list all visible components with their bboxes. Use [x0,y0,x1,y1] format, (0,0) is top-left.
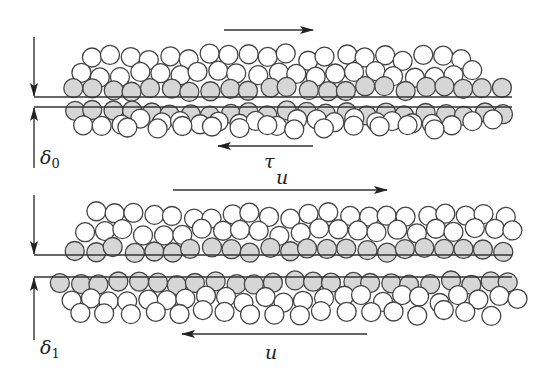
grain-white [414,45,433,64]
grain-white [490,286,509,305]
grain-white [214,221,233,240]
grain-white [315,47,334,66]
grain-shaded [240,243,259,262]
grain-white [329,220,348,239]
grain-white [370,117,389,136]
grain-white [485,219,504,238]
grain-shaded [202,238,221,257]
delta0-label: δ0 [40,148,60,170]
grain-white [483,110,502,129]
grain-white [239,45,258,64]
u-label-bottom-panel: u [265,343,277,362]
tau-label: τ [264,152,275,171]
grain-white [124,203,143,222]
u-label-top-panel: u [276,168,288,187]
grain-white [408,306,427,325]
grain-white [456,302,475,321]
grain-white [215,302,234,321]
grain-white [192,219,211,238]
bottom-panel-grains [50,202,527,326]
grain-shaded [180,82,199,101]
grain-white [344,116,363,135]
grain-white [256,287,275,306]
grain-white [265,305,284,324]
grain-white [241,305,260,324]
grain-white [463,112,482,131]
grain-white [209,61,228,80]
grain-shaded [395,240,414,259]
grain-white [162,207,181,226]
grain-shaded [148,273,167,292]
grain-shaded [141,79,160,98]
grain-white [444,222,463,241]
grain-white [311,302,330,321]
grain-white [362,303,381,322]
grain-white [87,202,106,221]
grain-shaded [201,82,220,101]
grain-white [76,223,95,242]
grain-white [170,304,189,323]
grain-shaded [286,271,305,290]
grain-shaded [122,82,141,101]
grain-white [71,303,90,322]
grain-white [425,120,444,139]
grain-white [482,306,501,325]
grain-shaded [304,272,323,291]
grain-white [348,221,367,240]
grain-white [173,116,192,135]
grain-white [434,301,453,320]
grain-white [388,220,407,239]
grain-white [249,221,268,240]
grain-white [74,116,93,135]
grain-white [100,45,119,64]
grain-shaded [358,241,377,260]
grain-white [200,44,219,63]
grain-white [134,226,153,245]
grain-shaded [435,77,454,96]
delta1-label: δ1 [40,338,60,360]
grain-white [285,120,304,139]
grain-white [463,61,482,80]
grain-shaded [473,240,492,259]
grain-white [161,47,180,66]
grain-white [352,286,371,305]
grain-shaded [130,272,149,291]
delta-subscript: 0 [51,156,59,171]
grain-white [95,304,114,323]
grain-shaded [83,79,102,98]
grain-white [337,302,356,321]
grain-white [230,220,249,239]
grain-white [148,119,167,138]
grain-white [276,44,295,63]
grain-shaded [378,243,397,262]
grain-shaded [319,82,338,101]
grain-white [310,219,329,238]
grain-shaded [145,242,164,261]
grain-shaded [356,77,375,96]
grain-shaded [109,272,128,291]
grain-white [188,62,207,81]
grain-white [367,223,386,242]
top-panel-grains [64,44,513,139]
grain-white [384,302,403,321]
grain-white [146,302,165,321]
grain-white [508,289,527,308]
delta-symbol: δ [40,336,51,358]
grain-white [290,306,309,325]
grain-white [193,301,212,320]
grain-white [121,305,140,324]
grain-white [410,287,429,306]
grain-white [326,64,345,83]
grain-shaded [281,242,300,261]
grain-white [113,220,132,239]
grain-shaded [277,77,296,96]
grain-white [442,116,461,135]
grain-shaded [221,79,240,98]
grain-white [338,45,357,64]
grain-shaded [162,79,181,98]
grain-white [202,117,221,136]
grain-shaded [472,79,491,98]
delta-symbol: δ [40,146,51,168]
grain-white [398,116,417,135]
grain-white [145,205,164,224]
